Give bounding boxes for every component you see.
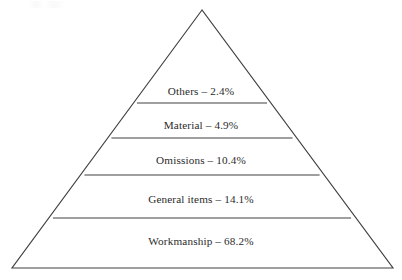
pyramid-tier-label-material: Material – 4.9% [0, 120, 402, 131]
pyramid-tier-label-general-items: General items – 14.1% [0, 194, 402, 205]
pyramid-tier-label-others: Others – 2.4% [0, 86, 402, 97]
pyramid-triangle-outline [12, 10, 393, 268]
pyramid-tier-label-workmanship: Workmanship – 68.2% [0, 236, 402, 247]
pyramid-figure: Others – 2.4% Material – 4.9% Omissions … [0, 0, 402, 280]
pyramid-tier-label-omissions: Omissions – 10.4% [0, 155, 402, 166]
